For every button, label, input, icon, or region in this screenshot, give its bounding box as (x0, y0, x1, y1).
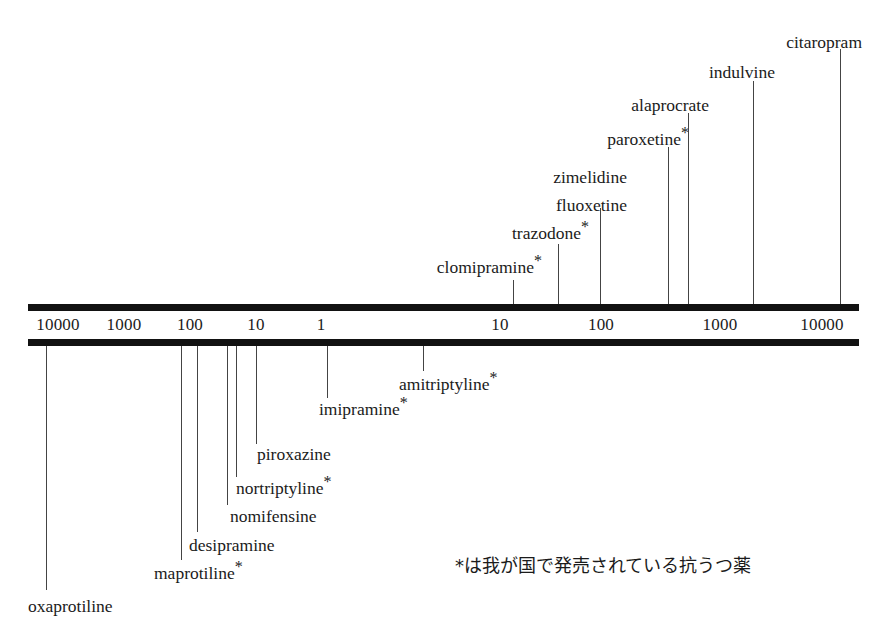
drug-name-text: citaropram (786, 32, 862, 52)
drug-name-label: zimelidine (553, 168, 627, 187)
drug-name-text: oxaprotiline (28, 596, 113, 616)
marketed-in-japan-asterisk-icon: * (489, 369, 497, 386)
marketed-in-japan-asterisk-icon: * (323, 473, 331, 490)
drug-name-label: desipramine (189, 536, 275, 555)
drug-name-text: imipramine (319, 399, 400, 419)
leader-line (181, 346, 182, 560)
drug-name-text: alaprocrate (631, 95, 709, 115)
axis-tick-label: 10 (247, 313, 264, 337)
marketed-in-japan-asterisk-icon: * (235, 558, 243, 575)
axis-tick-label: 1000 (107, 313, 142, 337)
leader-line (236, 346, 237, 477)
footnote-legend: *は我が国で発売されている抗うつ薬 (455, 555, 751, 577)
leader-line (600, 208, 601, 304)
drug-name-label: amitriptyline* (399, 375, 497, 394)
drug-name-label: paroxetine* (607, 130, 689, 149)
drug-name-label: citaropram (786, 33, 862, 52)
leader-line (513, 280, 514, 304)
drug-name-text: nomifensine (230, 506, 317, 526)
axis-bar-upper (28, 304, 859, 311)
drug-name-text: clomipramine (437, 257, 534, 277)
drug-name-label: maprotiline* (154, 564, 243, 583)
axis-tick-label: 10000 (36, 313, 80, 337)
axis-tick-label: 1000 (703, 313, 738, 337)
leader-line (227, 346, 228, 505)
drug-name-label: alaprocrate (631, 96, 709, 115)
leader-line (327, 346, 328, 398)
drug-name-text: desipramine (189, 535, 275, 555)
drug-name-text: maprotiline (154, 563, 235, 583)
marketed-in-japan-asterisk-icon: * (400, 394, 408, 411)
drug-name-label: fluoxetine (556, 196, 627, 215)
leader-line (840, 49, 841, 304)
axis-tick-label: 10 (491, 313, 508, 337)
leader-line (558, 244, 559, 304)
drug-name-text: nortriptyline (236, 478, 323, 498)
drug-name-label: clomipramine* (437, 258, 542, 277)
marketed-in-japan-asterisk-icon: * (581, 218, 589, 235)
drug-name-text: trazodone (512, 223, 581, 243)
drug-name-text: zimelidine (553, 167, 627, 187)
drug-name-text: indulvine (709, 62, 775, 82)
axis-tick-label: 10000 (800, 313, 844, 337)
leader-line (668, 147, 669, 304)
drug-name-label: indulvine (709, 63, 775, 82)
drug-name-label: nomifensine (230, 507, 317, 526)
drug-name-label: piroxazine (257, 445, 331, 464)
leader-line (46, 346, 47, 590)
drug-name-label: oxaprotiline (28, 597, 113, 616)
leader-line (256, 346, 257, 444)
leader-line (197, 346, 198, 532)
axis-tick-label: 100 (588, 313, 614, 337)
axis-bar-lower (28, 339, 859, 346)
leader-line (423, 346, 424, 371)
drug-name-text: fluoxetine (556, 195, 627, 215)
axis-tick-label: 1 (317, 313, 326, 337)
leader-line (753, 81, 754, 304)
drug-name-label: trazodone* (512, 224, 589, 243)
marketed-in-japan-asterisk-icon: * (534, 252, 542, 269)
antidepressant-potency-figure: 10000100010010110100100010000 clomiprami… (0, 0, 895, 626)
drug-name-text: paroxetine (607, 129, 681, 149)
drug-name-text: piroxazine (257, 444, 331, 464)
axis-tick-label: 100 (177, 313, 203, 337)
drug-name-text: amitriptyline (399, 374, 489, 394)
drug-name-label: imipramine* (319, 400, 408, 419)
leader-line (688, 113, 689, 304)
drug-name-label: nortriptyline* (236, 479, 331, 498)
